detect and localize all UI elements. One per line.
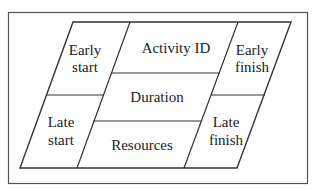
- late-start-line1: Late: [48, 114, 75, 130]
- early-finish-line1: Early: [236, 42, 269, 58]
- activity-node-diagram: Early start Activity ID Early finish Dur…: [0, 0, 315, 190]
- early-finish-line2: finish: [235, 59, 270, 75]
- activity-id-label: Activity ID: [142, 40, 211, 56]
- late-finish-line2: finish: [209, 132, 244, 148]
- late-finish-line1: Late: [213, 114, 240, 130]
- resources-label: Resources: [111, 137, 173, 153]
- late-start-line2: start: [48, 132, 75, 148]
- duration-label: Duration: [130, 89, 184, 105]
- early-start-line2: start: [72, 59, 99, 75]
- early-start-line1: Early: [69, 42, 102, 58]
